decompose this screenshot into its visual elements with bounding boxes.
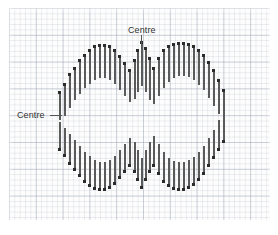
outline-endpoint-dot [207,164,210,167]
outline-endpoint-dot [63,154,66,157]
outline-tick-bar [124,144,126,172]
outline-tick-bar [119,56,121,90]
outline-tick-bar [158,58,160,96]
outline-endpoint-dot [93,45,96,48]
outline-tick-bar [149,142,151,172]
outline-tick-bar [218,80,220,114]
outline-endpoint-dot [197,49,200,52]
outline-endpoint-dot [103,44,106,47]
outline-endpoint-dot [144,47,147,50]
outline-endpoint-dot [58,91,61,94]
outline-tick-bar [64,128,66,156]
outline-tick-bar [59,122,61,150]
outline-endpoint-dot [222,140,225,143]
outline-tick-bar [153,136,155,166]
outline-endpoint-dot [128,164,131,167]
outline-tick-bar [129,70,131,102]
outline-endpoint-dot [202,172,205,175]
outline-tick-bar [163,50,165,88]
outline-endpoint-dot [73,168,76,171]
outline-endpoint-dot [212,156,215,159]
outline-endpoint-dot [123,62,126,65]
outline-tick-bar [89,50,91,84]
outline-tick-bar [114,156,116,184]
outline-endpoint-dot [187,186,190,189]
outline-tick-bar [74,68,76,100]
outline-endpoint-dot [78,59,81,62]
outline-endpoint-dot [157,172,160,175]
outline-tick-bar [173,44,175,78]
outline-endpoint-dot [78,174,81,177]
outline-tick-bar [74,140,76,170]
outline-tick-bar [203,146,205,174]
outline-endpoint-dot [103,188,106,191]
outline-endpoint-dot [217,79,220,82]
outline-tick-bar [141,158,143,188]
outline-tick-bar [134,60,136,99]
outline-tick-bar [114,50,116,84]
annotation-label-centre-left: Centre [17,110,45,120]
outline-tick-bar [137,50,139,92]
outline-tick-bar [208,138,210,166]
outline-tick-bar [198,152,200,180]
outline-endpoint-dot [167,184,170,187]
figure-container: Centre Centre [0,0,278,235]
outline-tick-bar [129,138,131,166]
outline-tick-bar [84,55,86,88]
outline-tick-bar [168,46,170,82]
outline-tick-bar [104,162,106,190]
outline-endpoint-dot [144,178,147,181]
outline-endpoint-dot [182,42,185,45]
outline-tick-bar [198,50,200,85]
outline-tick-bar [109,46,111,80]
outline-tick-bar [64,84,66,116]
outline-endpoint-dot [128,69,131,72]
outline-endpoint-dot [123,170,126,173]
outline-tick-bar [84,152,86,182]
outline-endpoint-dot [133,59,136,62]
outline-tick-bar [79,146,81,176]
outline-endpoint-dot [192,183,195,186]
annotation-leader-centre-left [50,115,62,116]
outline-endpoint-dot [207,61,210,64]
outline-endpoint-dot [202,54,205,57]
outline-endpoint-dot [152,164,155,167]
outline-endpoint-dot [197,178,200,181]
outline-tick-bar [183,43,185,76]
outline-endpoint-dot [177,42,180,45]
outline-endpoint-dot [108,186,111,189]
outline-endpoint-dot [118,176,121,179]
outline-tick-bar [99,45,101,78]
outline-endpoint-dot [136,49,139,52]
outline-endpoint-dot [172,43,175,46]
outline-tick-bar [193,46,195,80]
outline-tick-bar [188,160,190,188]
outline-tick-bar [178,162,180,190]
outline-endpoint-dot [140,186,143,189]
outline-tick-bar [178,43,180,76]
outline-tick-bar [193,157,195,185]
outline-endpoint-dot [217,148,220,151]
outline-tick-bar [119,150,121,178]
outline-endpoint-dot [172,187,175,190]
outline-tick-bar [213,70,215,106]
annotation-label-centre-top: Centre [128,25,156,35]
outline-endpoint-dot [83,54,86,57]
outline-endpoint-dot [58,148,61,151]
outline-tick-bar [79,60,81,94]
outline-tick-bar [89,156,91,186]
outline-endpoint-dot [63,83,66,86]
outline-tick-bar [99,162,101,190]
annotation-leader-centre-top [141,35,142,49]
outline-tick-bar [188,44,190,77]
outline-endpoint-dot [187,43,190,46]
outline-endpoint-dot [148,57,151,60]
outline-endpoint-dot [113,49,116,52]
outline-endpoint-dot [136,178,139,181]
outline-endpoint-dot [93,187,96,190]
outline-endpoint-dot [167,45,170,48]
outline-tick-bar [213,130,215,158]
outline-endpoint-dot [88,49,91,52]
outline-endpoint-dot [108,45,111,48]
outline-tick-bar [94,46,96,80]
